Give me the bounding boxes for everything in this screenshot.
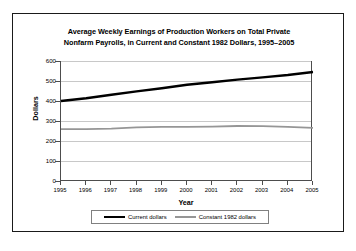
y-tick-label: 0 <box>30 177 56 184</box>
y-tick-label: 600 <box>30 57 56 64</box>
x-tick-mark <box>136 181 137 185</box>
y-tick-label: 500 <box>30 77 56 84</box>
y-tick-label: 100 <box>30 157 56 164</box>
series-lines <box>61 61 313 181</box>
x-tick-mark <box>85 181 86 185</box>
chart-legend: Current dollarsConstant 1982 dollars <box>91 210 269 224</box>
x-tick-mark <box>186 181 187 185</box>
y-tick-label: 400 <box>30 97 56 104</box>
series-line <box>61 72 313 101</box>
x-axis-label: Year <box>60 198 312 207</box>
x-tick-mark <box>211 181 212 185</box>
legend-label: Current dollars <box>128 214 167 220</box>
series-line <box>61 126 313 129</box>
chart-figure: Average Weekly Earnings of Production Wo… <box>12 13 344 232</box>
x-tick-label: 2005 <box>297 187 327 193</box>
y-axis-label: Dollars <box>31 83 40 135</box>
x-tick-mark <box>236 181 237 185</box>
legend-swatch <box>175 216 196 218</box>
x-tick-mark <box>60 181 61 185</box>
plot-wrapper: Dollars 0100200300400500600 199519961997… <box>13 14 345 233</box>
x-tick-mark <box>262 181 263 185</box>
x-tick-mark <box>312 181 313 185</box>
legend-swatch <box>104 216 125 218</box>
legend-item: Current dollars <box>104 214 167 220</box>
legend-label: Constant 1982 dollars <box>199 214 256 220</box>
x-tick-mark <box>161 181 162 185</box>
x-tick-mark <box>287 181 288 185</box>
y-tick-label: 200 <box>30 137 56 144</box>
plot-area <box>60 61 312 181</box>
x-tick-mark <box>110 181 111 185</box>
legend-item: Constant 1982 dollars <box>175 214 256 220</box>
y-tick-label: 300 <box>30 117 56 124</box>
